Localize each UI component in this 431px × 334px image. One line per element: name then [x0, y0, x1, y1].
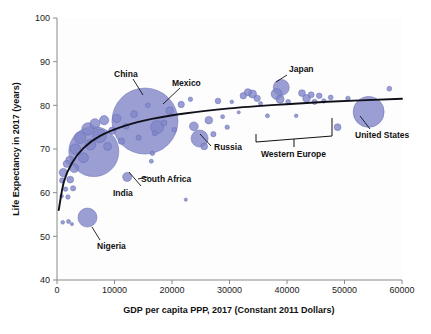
x-axis-title: GDP per capita PPP, 2017 (Constant 2011 …: [123, 305, 334, 315]
x-tick-20000: 20000: [159, 285, 184, 295]
annotation-japan: Japan: [289, 64, 314, 74]
bubble-point: [308, 92, 314, 98]
bubble-point: [136, 135, 141, 140]
x-tick-10000: 10000: [102, 285, 127, 295]
bubble-point: [316, 93, 322, 99]
annotation-nigeria: Nigeria: [97, 241, 126, 251]
bubble-point: [145, 103, 150, 108]
bubble-point: [67, 176, 74, 183]
bubble-point: [78, 153, 88, 163]
bubble-point: [149, 159, 153, 163]
bubble-chart: 405060708090100 010000200003000040000500…: [0, 0, 431, 334]
y-tick-100: 100: [35, 13, 50, 23]
bubble-point: [150, 151, 154, 155]
bubble-point: [188, 97, 192, 101]
bubble-point: [276, 95, 284, 103]
bubble-point: [215, 98, 221, 104]
bubble-point: [211, 132, 216, 137]
bubble-point: [113, 114, 121, 122]
bubble-point: [67, 219, 71, 223]
y-tick-80: 80: [40, 101, 50, 111]
bubble-point: [201, 143, 208, 150]
bubble-point: [74, 132, 86, 144]
bubble-point: [161, 120, 167, 126]
bubble-point: [104, 142, 112, 150]
bubble-point: [166, 107, 174, 115]
bubble-point: [230, 100, 234, 104]
bubble-point: [294, 114, 298, 118]
bubble-point: [240, 93, 246, 99]
bubble-point: [254, 95, 260, 101]
bubble-point: [131, 111, 138, 118]
annotation-mexico: Mexico: [172, 78, 201, 88]
x-tick-30000: 30000: [217, 285, 242, 295]
bubble-point: [61, 221, 65, 225]
bubble-point: [178, 101, 184, 107]
bubble-point: [184, 198, 187, 201]
y-axis-title: Life Expectancy in 2017 (years): [11, 82, 21, 216]
y-tick-40: 40: [40, 275, 50, 285]
annotation-united-states: United States: [355, 130, 410, 140]
x-tick-50000: 50000: [332, 285, 357, 295]
y-tick-60: 60: [40, 188, 50, 198]
y-tick-70: 70: [40, 144, 50, 154]
annotation-western-europe: Western Europe: [261, 149, 326, 159]
y-tick-50: 50: [40, 232, 50, 242]
bubble-point: [237, 111, 240, 114]
bubble-point: [70, 223, 73, 226]
bubble-point: [328, 95, 333, 100]
annotation-russia: Russia: [214, 142, 242, 152]
bubble-point: [189, 122, 198, 131]
bubble-point: [299, 90, 306, 97]
x-tick-0: 0: [54, 285, 59, 295]
annotation-india: India: [113, 188, 133, 198]
bubble-point: [205, 116, 213, 124]
x-tick-40000: 40000: [274, 285, 299, 295]
bubble-nigeria: [78, 208, 97, 227]
bubble-point: [100, 116, 109, 125]
bubble-point: [334, 124, 341, 131]
y-tick-90: 90: [40, 57, 50, 67]
x-tick-60000: 60000: [389, 285, 414, 295]
bubble-point: [221, 115, 225, 119]
chart-canvas: 405060708090100 010000200003000040000500…: [0, 0, 431, 334]
annotation-china: China: [114, 69, 138, 79]
bubble-point: [152, 131, 157, 136]
bubble-point: [90, 119, 100, 129]
bubble-point: [63, 187, 67, 191]
annotation-south-africa: South Africa: [141, 174, 191, 184]
bubble-point: [71, 186, 76, 191]
bubble-point: [346, 96, 350, 100]
bubble-point: [172, 127, 177, 132]
bubble-point: [118, 138, 124, 144]
bubble-point: [387, 86, 392, 91]
bubble-point: [265, 114, 269, 118]
bubble-point: [66, 195, 70, 199]
bubble-point: [225, 125, 229, 129]
